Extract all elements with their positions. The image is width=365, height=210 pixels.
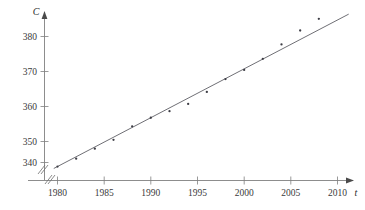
x-axis-label: t: [355, 187, 358, 198]
y-tick-label-370: 370: [23, 67, 38, 77]
x-tick-label-2010: 2010: [328, 188, 347, 198]
data-point: [243, 69, 245, 71]
x-tick-label-2005: 2005: [281, 188, 300, 198]
co2-scatter-chart: 380 370 360 350 340 C 1980 1985 1990 199…: [0, 0, 365, 210]
data-point: [318, 18, 320, 20]
data-point-group: [56, 18, 320, 168]
data-point: [75, 158, 77, 160]
x-axis-arrow-icon: [346, 178, 354, 184]
data-point: [94, 147, 96, 149]
data-point: [262, 58, 264, 60]
regression-line: [54, 14, 349, 168]
y-tick-label-380: 380: [23, 32, 38, 42]
x-tick-label-2000: 2000: [235, 188, 254, 198]
x-tick-label-1985: 1985: [95, 188, 114, 198]
y-axis-label: C: [33, 6, 40, 17]
y-tick-label-360: 360: [23, 102, 38, 112]
data-point: [299, 29, 301, 31]
data-point: [150, 117, 152, 119]
y-tick-label-340: 340: [23, 158, 38, 168]
y-axis-arrow-icon: [42, 11, 48, 19]
chart-figure: 380 370 360 350 340 C 1980 1985 1990 199…: [0, 0, 365, 210]
data-point: [280, 43, 282, 45]
x-axis-break-icon: [45, 175, 55, 184]
x-tick-label-1990: 1990: [141, 188, 160, 198]
y-tick-label-350: 350: [23, 137, 38, 147]
data-point: [112, 139, 114, 141]
x-tick-label-1980: 1980: [48, 188, 67, 198]
data-point: [206, 91, 208, 93]
data-point: [168, 110, 170, 112]
data-point: [187, 103, 189, 105]
data-point: [224, 78, 226, 80]
data-point: [56, 165, 58, 167]
y-axis-break-icon: [38, 165, 48, 174]
data-point: [131, 125, 133, 127]
x-tick-label-1995: 1995: [188, 188, 207, 198]
